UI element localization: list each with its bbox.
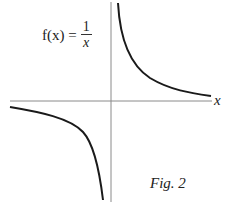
fraction: 1 x (81, 20, 92, 51)
fraction-denominator: x (83, 35, 89, 51)
hyperbola-plot (0, 0, 227, 204)
function-formula: f(x) = 1 x (42, 20, 92, 51)
figure-caption: Fig. 2 (150, 175, 186, 192)
lower-branch-curve (10, 107, 103, 200)
x-axis-label: x (214, 92, 221, 109)
upper-branch-curve (118, 3, 211, 96)
formula-lhs: f(x) = (42, 27, 77, 44)
fraction-numerator: 1 (81, 20, 92, 35)
